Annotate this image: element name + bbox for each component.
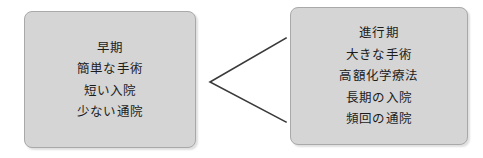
advanced-stage-line-5: 頻回の通院: [346, 108, 412, 130]
advanced-stage-line-2: 大きな手術: [346, 44, 412, 66]
early-stage-line-4: 少ない通院: [77, 101, 143, 123]
early-stage-line-1: 早期: [97, 37, 123, 59]
diagram-canvas: 早期 簡単な手術 短い入院 少ない通院 進行期 大きな手術 高額化学療法 長期の…: [0, 0, 483, 158]
advanced-stage-line-3: 高額化学療法: [339, 65, 418, 87]
early-stage-line-2: 簡単な手術: [77, 58, 143, 80]
early-stage-box[interactable]: 早期 簡単な手術 短い入院 少ない通院: [24, 11, 196, 148]
early-stage-line-3: 短い入院: [84, 80, 137, 102]
advanced-stage-line-4: 長期の入院: [346, 87, 412, 109]
advanced-stage-box[interactable]: 進行期 大きな手術 高額化学療法 長期の入院 頻回の通院: [290, 7, 468, 145]
advanced-stage-line-1: 進行期: [359, 22, 399, 44]
